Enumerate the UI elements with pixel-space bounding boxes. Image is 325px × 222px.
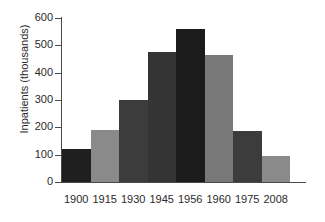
- x-axis-tick-label: 1945: [148, 192, 177, 206]
- y-axis-tick-mark: [55, 155, 61, 156]
- y-axis-tick-mark: [55, 127, 61, 128]
- y-axis-tick-mark: [55, 45, 61, 46]
- bar: [62, 149, 91, 182]
- y-axis-tick-label: 200: [7, 121, 53, 132]
- x-axis-tick-label: 1900: [62, 192, 91, 206]
- bar: [233, 131, 262, 182]
- y-axis-tick-labels: 0100200300400500600: [0, 0, 53, 222]
- x-axis-tick-label: 1956: [176, 192, 205, 206]
- x-axis-tick-label: 2008: [262, 192, 291, 206]
- x-axis-line: [61, 182, 306, 183]
- y-axis-tick-mark: [55, 100, 61, 101]
- y-axis-tick-label: 0: [7, 176, 53, 187]
- bar: [176, 29, 205, 182]
- bar: [148, 52, 177, 182]
- bar-series: [62, 18, 290, 182]
- bar: [205, 55, 234, 182]
- bar-chart-figure: Inpatients (thousands) 01002003004005006…: [0, 0, 325, 222]
- bar: [119, 100, 148, 182]
- x-axis-tick-labels: 19001915193019451956196019752008: [62, 192, 290, 208]
- y-axis-tick-label: 300: [7, 94, 53, 105]
- bar: [91, 130, 120, 182]
- y-axis-tick-mark: [55, 182, 61, 183]
- y-axis-tick-label: 400: [7, 67, 53, 78]
- y-axis-tick-label: 100: [7, 149, 53, 160]
- x-axis-tick-label: 1960: [205, 192, 234, 206]
- y-axis-tick-mark: [55, 73, 61, 74]
- y-axis-tick-label: 500: [7, 39, 53, 50]
- y-axis-tick-mark: [55, 18, 61, 19]
- x-axis-tick-label: 1915: [91, 192, 120, 206]
- bar: [262, 156, 291, 183]
- y-axis-tick-label: 600: [7, 12, 53, 23]
- x-axis-tick-label: 1975: [233, 192, 262, 206]
- x-axis-tick-label: 1930: [119, 192, 148, 206]
